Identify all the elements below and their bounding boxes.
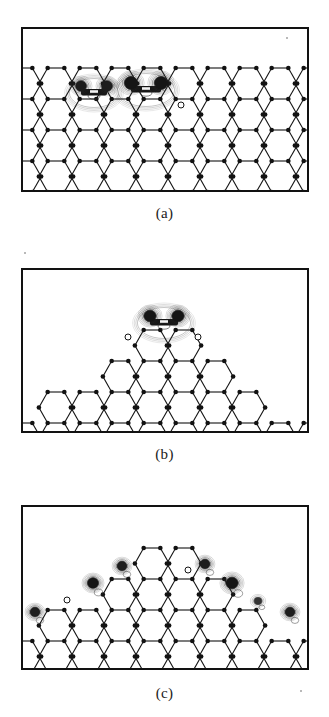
atom-left-step xyxy=(82,573,104,596)
panel-a xyxy=(21,27,309,192)
open-site-1 xyxy=(178,102,184,108)
atom-right-lower xyxy=(250,594,265,609)
panel-c-lattice-plot xyxy=(21,505,309,670)
atom-far-right xyxy=(280,603,300,623)
panel-b xyxy=(21,268,309,433)
panel-a-lattice-plot xyxy=(21,27,309,192)
panel-c xyxy=(21,505,309,670)
molecule-center xyxy=(113,69,180,111)
scan-speck xyxy=(300,690,302,692)
open-site-mid xyxy=(185,567,191,573)
scan-speck xyxy=(286,37,288,39)
atom-left-upper xyxy=(112,557,132,577)
panel-c-label: (c) xyxy=(0,685,329,702)
open-site-right xyxy=(195,334,201,340)
figure-three-panel-contour-plots: (a) (b) (c) xyxy=(0,0,329,717)
scan-speck xyxy=(24,252,26,254)
open-site-left xyxy=(64,597,70,603)
open-site-left xyxy=(125,334,131,340)
panel-b-label: (b) xyxy=(0,446,329,463)
panel-a-label: (a) xyxy=(0,205,329,222)
panel-b-lattice-plot xyxy=(21,268,309,433)
